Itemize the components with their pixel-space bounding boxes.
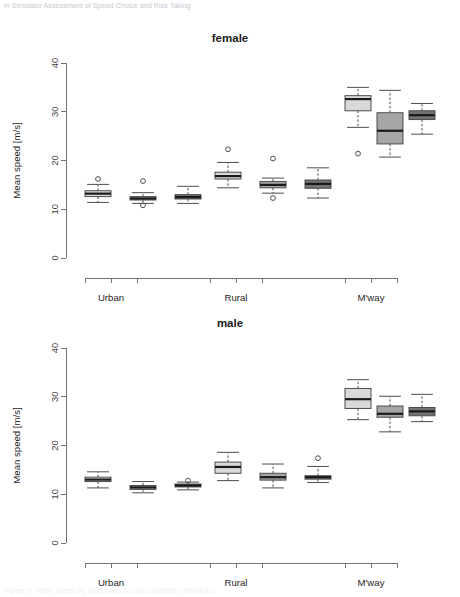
boxplot-box [175, 478, 201, 490]
y-axis-tick-label: 30 [49, 107, 60, 117]
boxplot-box [215, 147, 241, 188]
figure-page: in Simulator Assessment of Speed Choice … [0, 0, 460, 597]
boxplot-box [377, 396, 403, 432]
x-axis-group-label: M'way [358, 292, 385, 303]
boxplot-box [409, 103, 435, 134]
y-axis-tick-label: 20 [49, 440, 60, 450]
outlier-point [271, 156, 276, 161]
outlier-point [316, 456, 321, 461]
boxplot-box [130, 482, 156, 493]
caption-bottom: Figure 5: Mean speed by road type, sex a… [4, 584, 456, 597]
boxplot-box [377, 90, 403, 157]
outlier-point [141, 179, 146, 184]
boxplot-box [85, 177, 111, 203]
outlier-point [356, 151, 361, 156]
panel-title: male [217, 317, 243, 329]
boxplot-box [130, 179, 156, 208]
y-axis-tick-label: 20 [49, 155, 60, 165]
panel-title: female [212, 32, 248, 44]
y-axis-label: Mean speed [m/s] [11, 407, 22, 483]
boxplot-svg-female: female010203040Mean speed [m/s]UrbanRura… [0, 20, 460, 307]
chart-panel-male: male010203040Mean speed [m/s]UrbanRuralM… [0, 305, 460, 592]
boxplot-box [215, 452, 241, 480]
box-iqr [345, 96, 371, 111]
y-axis-tick-label: 30 [49, 392, 60, 402]
y-axis-label: Mean speed [m/s] [11, 122, 22, 198]
y-axis-tick-label: 10 [49, 204, 60, 214]
y-axis-tick-label: 40 [49, 58, 60, 68]
y-axis-tick-label: 40 [49, 343, 60, 353]
outlier-point [271, 196, 276, 201]
outlier-point [96, 177, 101, 182]
boxplot-box [409, 394, 435, 421]
boxplot-box [260, 156, 286, 200]
x-axis-group-label: Rural [225, 292, 248, 303]
caption-top: in Simulator Assessment of Speed Choice … [4, 0, 456, 11]
box-iqr [377, 113, 403, 144]
box-iqr [377, 406, 403, 417]
boxplot-box [175, 186, 201, 203]
boxplot-box [345, 87, 371, 156]
boxplot-box [305, 168, 331, 198]
y-axis-tick-label: 0 [49, 540, 60, 545]
boxplot-box [260, 464, 286, 488]
y-axis-tick-label: 10 [49, 489, 60, 499]
x-axis-group-label: Urban [98, 292, 124, 303]
boxplot-box [305, 456, 331, 483]
y-axis-tick-label: 0 [49, 255, 60, 260]
chart-panel-female: female010203040Mean speed [m/s]UrbanRura… [0, 20, 460, 307]
outlier-point [226, 147, 231, 152]
boxplot-box [345, 380, 371, 420]
boxplot-svg-male: male010203040Mean speed [m/s]UrbanRuralM… [0, 305, 460, 592]
boxplot-box [85, 472, 111, 488]
